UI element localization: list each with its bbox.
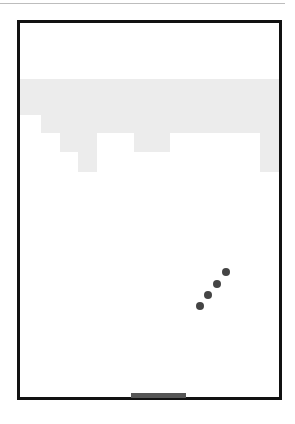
paddle[interactable] [131,393,186,398]
brick [20,79,279,115]
brick [260,152,279,172]
brick [78,152,97,172]
brick [134,133,170,152]
brick [260,133,279,152]
brick [41,115,279,133]
ball [213,280,221,288]
top-divider [0,3,285,4]
ball [204,291,212,299]
ball [196,302,204,310]
brick [60,133,97,152]
game-frame [17,20,282,400]
ball [222,268,230,276]
